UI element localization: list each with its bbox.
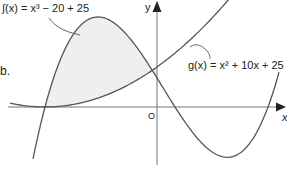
curve-g-label: g(x) = x² + 10x + 25 [188,59,284,71]
y-axis-label: y [145,1,151,13]
leader-line-g [190,45,210,59]
part-label: b. [0,64,10,78]
y-axis-arrow-icon [153,1,162,12]
origin-label: O [148,111,155,121]
shaded-region [45,17,157,107]
graph-figure: ∫(x) = x³ − 20 + 25 g(x) = x² + 10x + 25… [0,0,287,174]
x-axis-label: x [281,111,287,123]
curve-f-label: ∫(x) = x³ − 20 + 25 [1,2,89,15]
